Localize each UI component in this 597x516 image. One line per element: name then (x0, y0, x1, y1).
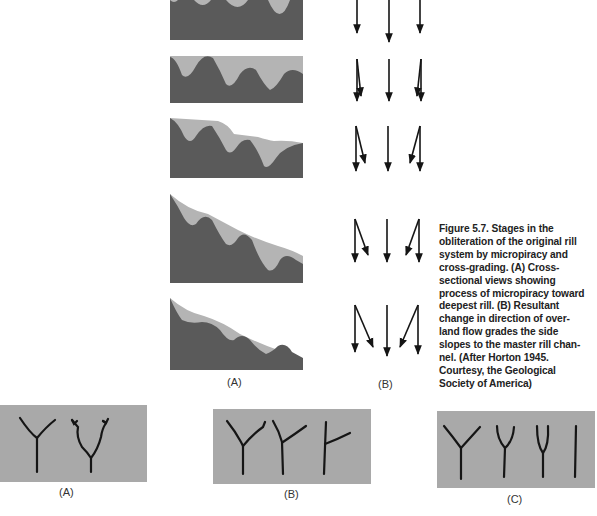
rill-1 (444, 426, 461, 479)
rill-2-branch (505, 427, 514, 448)
caption-line: change in direction of over- (439, 313, 597, 326)
rill-3 (537, 426, 543, 477)
plan-view-a-drawing (0, 405, 147, 482)
rill-1-branch (37, 420, 55, 438)
rill-3-branch (325, 433, 350, 444)
cross-section-stage-5 (170, 298, 303, 370)
cross-section-stage-1 (170, 0, 303, 40)
plan-view-a-label: (A) (59, 486, 74, 498)
flow-arrow-column (340, 0, 440, 400)
cross-section-stage-4 (170, 194, 303, 283)
plan-view-b-drawing (213, 409, 371, 484)
rill-2 (497, 426, 505, 477)
caption-line: nel. (After Horton 1945. (439, 352, 597, 365)
caption-line: Society of America) (439, 378, 597, 391)
rill-2 (273, 421, 283, 474)
plan-view-b (213, 409, 371, 484)
plan-view-c-drawing (437, 411, 595, 488)
arrows-stage-1 (357, 0, 420, 42)
flow-arrow-drawings (340, 0, 440, 400)
caption-line: process of micropiracy toward (439, 288, 597, 301)
cross-section-stage-2 (170, 56, 303, 103)
rill-3-branch (543, 426, 548, 453)
rill-4 (575, 426, 576, 477)
rill-1-branch (461, 427, 480, 448)
caption-line: land flow grades the side (439, 326, 597, 339)
caption-line: cross-grading. (A) Cross- (439, 262, 597, 275)
caption-line: system by micropiracy and (439, 249, 597, 262)
arrows-stage-5 (355, 305, 418, 356)
plan-view-c-label: (C) (507, 493, 522, 505)
caption-line: Figure 5.7. Stages in the (439, 223, 597, 236)
arrows-stage-2 (357, 59, 421, 101)
plan-view-c (437, 411, 595, 488)
arrows-stage-4 (355, 219, 419, 262)
rill-1 (227, 421, 243, 474)
plan-view-a (0, 405, 147, 482)
cross-section-label: (A) (227, 376, 242, 388)
cross-section-column (168, 0, 308, 400)
caption-line: slopes to the master rill chan- (439, 339, 597, 352)
flow-arrow-label: (B) (378, 378, 393, 390)
rill-2-branch (91, 421, 106, 458)
figure-caption: Figure 5.7. Stages in the obliteration o… (439, 223, 597, 391)
plan-view-b-label: (B) (284, 488, 299, 500)
caption-line: obliteration of the original rill (439, 236, 597, 249)
rill-2-branch (283, 426, 306, 442)
caption-line: Courtesy, the Geological (439, 365, 597, 378)
rill-1-branch (243, 422, 265, 446)
cross-section-stage-3 (170, 118, 303, 178)
rill-1 (20, 418, 37, 472)
rill-2 (72, 420, 91, 472)
caption-line: deepest rill. (B) Resultant (439, 300, 597, 313)
cross-section-drawings (168, 0, 308, 400)
arrows-stage-3 (356, 126, 420, 171)
caption-line: sectional views showing (439, 275, 597, 288)
rill-3 (324, 422, 326, 474)
